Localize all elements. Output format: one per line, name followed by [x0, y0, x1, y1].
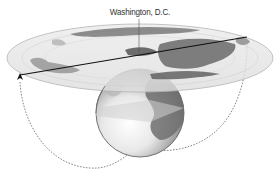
- azimuthal-map-disc: [7, 24, 273, 92]
- washington-dc-label: Washington, D.C.: [14, 7, 266, 17]
- projection-diagram: Washington, D.C.: [0, 0, 280, 174]
- diagram-canvas: [0, 0, 280, 174]
